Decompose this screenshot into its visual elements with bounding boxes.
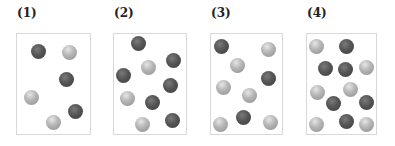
- dark-particle: [116, 68, 131, 83]
- light-particle: [310, 85, 325, 100]
- panel-label: (2): [114, 6, 134, 20]
- dark-particle: [339, 39, 354, 54]
- dark-particle: [131, 36, 146, 51]
- dark-particle: [59, 72, 74, 87]
- light-particle: [359, 117, 374, 132]
- light-particle: [242, 88, 257, 103]
- dark-particle: [68, 104, 83, 119]
- panel-label: (4): [307, 6, 327, 20]
- light-particle: [263, 115, 278, 130]
- dark-particle: [261, 71, 276, 86]
- light-particle: [62, 45, 77, 60]
- light-particle: [213, 117, 228, 132]
- dark-particle: [338, 62, 353, 77]
- dark-particle: [145, 95, 160, 110]
- light-particle: [230, 58, 245, 73]
- light-particle: [261, 42, 276, 57]
- light-particle: [343, 82, 358, 97]
- panel-label: (1): [17, 6, 37, 20]
- dark-particle: [214, 39, 229, 54]
- dark-particle: [318, 61, 333, 76]
- light-particle: [359, 60, 374, 75]
- light-particle: [120, 91, 135, 106]
- dark-particle: [31, 44, 46, 59]
- dark-particle: [166, 53, 181, 68]
- light-particle: [309, 117, 324, 132]
- light-particle: [135, 117, 150, 132]
- dark-particle: [326, 96, 341, 111]
- light-particle: [141, 60, 156, 75]
- dark-particle: [236, 110, 251, 125]
- dark-particle: [163, 78, 178, 93]
- light-particle: [24, 90, 39, 105]
- panel-label: (3): [211, 6, 231, 20]
- dark-particle: [165, 113, 180, 128]
- light-particle: [216, 80, 231, 95]
- light-particle: [46, 115, 61, 130]
- dark-particle: [359, 95, 374, 110]
- dark-particle: [339, 114, 354, 129]
- light-particle: [309, 39, 324, 54]
